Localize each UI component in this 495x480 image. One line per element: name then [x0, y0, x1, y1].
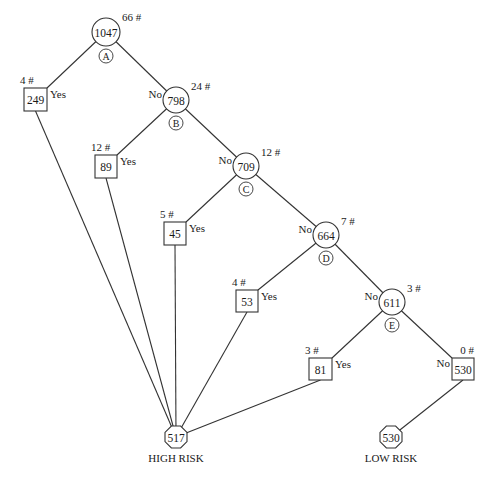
box-value: 89: [100, 161, 112, 173]
branch-label-no: No: [149, 88, 163, 100]
box-value: 249: [27, 94, 45, 106]
edge-n5-to-low: [391, 380, 463, 437]
node-letter: B: [173, 118, 180, 129]
edge-y3-to-high: [175, 245, 176, 437]
decision-tree-diagram: 104766 #A79824 #NoB70912 #NoC6647 #NoD61…: [0, 0, 495, 480]
case-count: 3 #: [305, 344, 319, 356]
branch-label-yes: Yes: [261, 290, 277, 302]
node-letter: C: [243, 184, 250, 195]
outcome-box-y4: 534 #Yes: [232, 276, 277, 312]
terminal-low-risk: 530LOW RISK: [365, 426, 418, 464]
terminal-high-risk: 517HIGH RISK: [148, 426, 203, 464]
branch-label-no: No: [365, 290, 379, 302]
node-value: 664: [317, 230, 335, 242]
branch-label-no: No: [299, 223, 313, 235]
node-value: 1047: [95, 27, 118, 39]
outcome-box-y2: 8912 #Yes: [91, 141, 136, 178]
branch-label-yes: Yes: [335, 358, 351, 370]
case-count: 0 #: [460, 344, 474, 356]
edge-y4-to-high: [176, 312, 247, 437]
node-value: 709: [237, 161, 255, 173]
edge-no-B-C: [176, 100, 246, 166]
case-count: 5 #: [160, 208, 174, 220]
box-value: 45: [169, 228, 181, 240]
edges-layer: [36, 32, 464, 437]
terminal-label: LOW RISK: [365, 452, 418, 464]
case-count: 12 #: [261, 146, 281, 158]
outcome-box-y5: 813 #Yes: [305, 344, 351, 380]
node-value: 611: [384, 297, 401, 309]
branch-label-no: No: [437, 357, 451, 369]
node-letter: E: [389, 320, 395, 331]
case-count: 66 #: [122, 11, 142, 23]
node-letter: D: [322, 253, 329, 264]
branch-label-yes: Yes: [189, 222, 205, 234]
case-count: 4 #: [20, 74, 34, 86]
case-count: 4 #: [232, 276, 246, 288]
decision-node-D: 6647 #NoD: [299, 215, 356, 265]
terminal-value: 517: [167, 432, 185, 444]
edge-no-A-B: [106, 32, 176, 100]
node-letter: A: [102, 51, 110, 62]
decision-node-E: 6113 #NoE: [365, 282, 422, 332]
case-count: 24 #: [191, 80, 211, 92]
outcome-box-y1: 2494 #Yes: [20, 74, 66, 111]
edge-y5-to-high: [176, 380, 321, 437]
branch-label-no: No: [219, 154, 233, 166]
case-count: 3 #: [407, 282, 421, 294]
decision-node-B: 79824 #NoB: [149, 80, 211, 130]
case-count: 12 #: [91, 141, 111, 153]
branch-label-yes: Yes: [50, 88, 66, 100]
terminal-value: 530: [382, 432, 400, 444]
edge-no-C-D: [246, 166, 326, 235]
node-value: 798: [167, 95, 185, 107]
case-count: 7 #: [341, 215, 355, 227]
box-value: 53: [241, 296, 253, 308]
decision-node-A: 104766 #A: [92, 11, 142, 63]
branch-label-yes: Yes: [120, 155, 136, 167]
decision-tree-canvas: 104766 #A79824 #NoB70912 #NoC6647 #NoD61…: [0, 0, 495, 480]
edge-no-D-E: [326, 235, 392, 302]
outcome-box-y3: 455 #Yes: [160, 208, 205, 245]
terminal-label: HIGH RISK: [148, 452, 203, 464]
box-value: 81: [315, 364, 327, 376]
nodes-layer: 104766 #A79824 #NoB70912 #NoC6647 #NoD61…: [20, 11, 475, 464]
box-value: 530: [454, 364, 472, 376]
